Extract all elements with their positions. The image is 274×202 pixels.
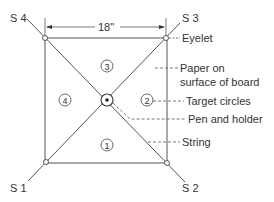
corner-label-s3: S 3	[182, 12, 199, 24]
callout-paper-line2: surface of board	[180, 76, 260, 88]
callout-string: String	[182, 136, 211, 148]
pen-tip-icon	[105, 98, 109, 102]
corner-label-s4: S 4	[10, 12, 27, 24]
callout-paper-line1: Paper on	[180, 62, 225, 74]
region-4-label: 4	[63, 96, 68, 106]
arrow-left-icon	[46, 25, 52, 29]
region-2-label: 2	[145, 96, 150, 106]
region-1-label: 1	[105, 141, 110, 151]
eyelet-s1-icon	[44, 160, 49, 165]
region-3-label: 3	[105, 62, 110, 72]
corner-label-s2: S 2	[182, 182, 199, 194]
corner-label-s1: S 1	[10, 182, 27, 194]
eyelet-s2-icon	[165, 161, 170, 166]
callout-eyelet: Eyelet	[182, 32, 213, 44]
dimension-label: 18"	[98, 21, 114, 33]
eyelet-s3-icon	[164, 36, 169, 41]
string-art-diagram: 18" S 4 S 3 S 2 S 1 3 2 4 1 Eyelet Paper…	[0, 0, 274, 202]
eyelet-s4-icon	[43, 36, 48, 41]
callout-pen: Pen and holder	[188, 113, 263, 125]
callout-target: Target circles	[186, 95, 251, 107]
arrow-right-icon	[159, 25, 165, 29]
